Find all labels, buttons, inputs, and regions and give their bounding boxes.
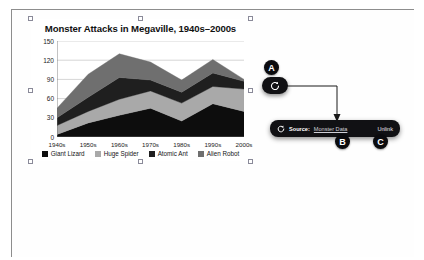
unlink-button[interactable]: Unlink xyxy=(377,126,393,132)
plot-area xyxy=(57,41,244,137)
source-link[interactable]: Monster Data xyxy=(314,126,348,132)
selection-handle-middle-right[interactable] xyxy=(248,88,253,93)
selection-handle-bottom-left[interactable] xyxy=(28,159,33,164)
legend-item: Huge Spider xyxy=(95,150,139,157)
y-tick-label: 30 xyxy=(32,114,54,121)
chart-canvas[interactable]: Monster Attacks in Megaville, 1940s–2000… xyxy=(31,19,250,161)
chart-object[interactable]: Monster Attacks in Megaville, 1940s–2000… xyxy=(31,19,250,161)
source-label: Source: xyxy=(289,126,310,132)
selection-handle-middle-left[interactable] xyxy=(28,88,33,93)
legend-label: Giant Lizard xyxy=(51,150,85,157)
legend-item: Atomic Ant xyxy=(149,150,188,157)
x-tick-label: 2000s xyxy=(229,141,259,148)
chart-title: Monster Attacks in Megaville, 1940s–2000… xyxy=(31,23,250,34)
refresh-data-button[interactable] xyxy=(262,77,288,94)
legend-swatch xyxy=(42,151,48,157)
callout-badge-a: A xyxy=(264,60,279,75)
stacked-area-plot xyxy=(57,41,244,137)
legend-swatch xyxy=(95,151,101,157)
legend-item: Alien Robot xyxy=(198,150,240,157)
y-tick-label: 120 xyxy=(32,57,54,64)
x-tick-label: 1970s xyxy=(136,141,166,148)
selection-handle-bottom-center[interactable] xyxy=(138,159,143,164)
y-tick-label: 60 xyxy=(32,95,54,102)
x-tick-label: 1940s xyxy=(42,141,72,148)
selection-handle-bottom-right[interactable] xyxy=(248,159,253,164)
x-tick-label: 1950s xyxy=(73,141,103,148)
x-tick-label: 1980s xyxy=(167,141,197,148)
screenshot-root: Monster Attacks in Megaville, 1940s–2000… xyxy=(0,0,424,260)
refresh-icon[interactable] xyxy=(277,125,285,133)
legend-label: Huge Spider xyxy=(104,150,139,157)
x-tick-label: 1990s xyxy=(198,141,228,148)
legend-label: Atomic Ant xyxy=(158,150,188,157)
chart-legend: Giant LizardHuge SpiderAtomic AntAlien R… xyxy=(31,150,250,157)
y-tick-label: 90 xyxy=(32,76,54,83)
selection-handle-top-center[interactable] xyxy=(138,16,143,21)
selection-handle-top-left[interactable] xyxy=(28,16,33,21)
callout-badge-b: B xyxy=(335,134,350,149)
y-tick-label: 0 xyxy=(32,134,54,141)
selection-handle-top-right[interactable] xyxy=(248,16,253,21)
callout-badge-c: C xyxy=(373,134,388,149)
legend-label: Alien Robot xyxy=(207,150,240,157)
legend-swatch xyxy=(149,151,155,157)
x-tick-label: 1960s xyxy=(104,141,134,148)
refresh-icon xyxy=(270,81,280,91)
legend-item: Giant Lizard xyxy=(42,150,85,157)
legend-swatch xyxy=(198,151,204,157)
y-tick-label: 150 xyxy=(32,38,54,45)
